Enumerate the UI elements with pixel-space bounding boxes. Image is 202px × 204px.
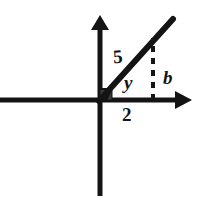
diagram-canvas: 5 y b 2 (0, 0, 202, 204)
outer-vertical-leg-label: b (163, 68, 173, 87)
hypotenuse-line (99, 19, 173, 101)
coordinate-diagram (0, 0, 202, 204)
x-axis-arrowhead-icon (175, 91, 192, 109)
y-axis-arrowhead-icon (91, 15, 109, 30)
hypotenuse-length-label: 5 (112, 47, 123, 67)
inner-vertical-leg-label: y (124, 73, 132, 92)
horizontal-leg-length-label: 2 (122, 105, 132, 124)
